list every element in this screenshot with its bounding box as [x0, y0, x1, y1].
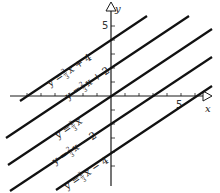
- svg-text:x − 4: x − 4: [82, 154, 110, 178]
- x-axis-label: x: [205, 103, 211, 114]
- line-y-2-3x: [8, 29, 212, 165]
- label-line-minus-4: y = 2 3 x − 4: [61, 154, 112, 193]
- svg-text:x + 4: x + 4: [65, 51, 93, 75]
- y-tick-label-5: 5: [102, 20, 108, 31]
- svg-text:x − 2: x − 2: [70, 129, 98, 153]
- y-axis-label: y: [114, 3, 121, 14]
- svg-text:x + 2: x + 2: [83, 64, 111, 88]
- graph-svg: y x 5 5 y = 2 3 x + 4 y = 2 3 x + 2 y = …: [0, 0, 220, 193]
- x-axis-arrow-icon: [203, 91, 212, 101]
- coordinate-plane-diagram: y x 5 5 y = 2 3 x + 4 y = 2 3 x + 2 y = …: [0, 0, 220, 193]
